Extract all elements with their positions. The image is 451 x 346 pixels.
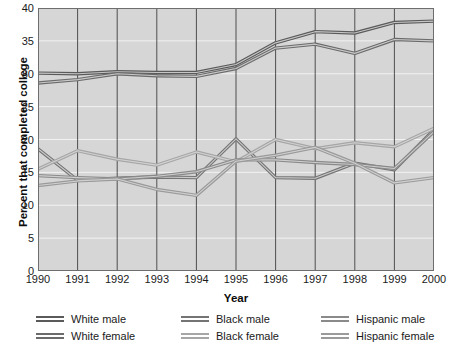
legend-column: Hispanic maleHispanic female: [321, 311, 451, 346]
legend-color-swatch: [321, 316, 349, 323]
y-axis-tick-label: 5: [4, 233, 34, 244]
y-axis-tick-label: 30: [4, 69, 34, 80]
legend-item[interactable]: White male: [36, 311, 184, 328]
legend-label: Hispanic female: [356, 331, 434, 342]
y-axis-tick-label: 10: [4, 200, 34, 211]
legend-label: Black male: [216, 314, 270, 325]
y-axis-tick-label: 40: [4, 3, 34, 14]
y-axis-tick-label: 25: [4, 102, 34, 113]
legend-item[interactable]: Hispanic male: [321, 311, 451, 328]
legend-label: White female: [71, 331, 135, 342]
legend-item[interactable]: White female: [36, 328, 184, 345]
legend-color-swatch: [321, 333, 349, 340]
legend-color-swatch: [36, 316, 64, 323]
legend-color-swatch: [181, 333, 209, 340]
legend-item[interactable]: Black male: [181, 311, 329, 328]
x-axis-tick-label: 2000: [411, 274, 451, 285]
chart-legend: White maleWhite femaleBlack maleBlack fe…: [0, 311, 443, 346]
x-axis-tick-labels: 1990199119921993199419951996199719981999…: [38, 274, 434, 290]
y-axis-tick-label: 20: [4, 135, 34, 146]
legend-color-swatch: [36, 333, 64, 340]
legend-item[interactable]: Hispanic female: [321, 328, 451, 345]
legend-color-swatch: [181, 316, 209, 323]
y-axis-tick-label: 15: [4, 167, 34, 178]
legend-column: White maleWhite female: [36, 311, 184, 346]
y-axis-tick-labels: 0510152025303540: [0, 0, 34, 279]
legend-column: Black maleBlack female: [181, 311, 329, 346]
legend-label: Black female: [216, 331, 279, 342]
legend-label: White male: [71, 314, 126, 325]
x-axis-title: Year: [38, 292, 434, 304]
y-axis-tick-label: 35: [4, 36, 34, 47]
legend-item[interactable]: Black female: [181, 328, 329, 345]
plot-area: [38, 8, 434, 271]
plot-border: [38, 8, 434, 271]
legend-label: Hispanic male: [356, 314, 425, 325]
